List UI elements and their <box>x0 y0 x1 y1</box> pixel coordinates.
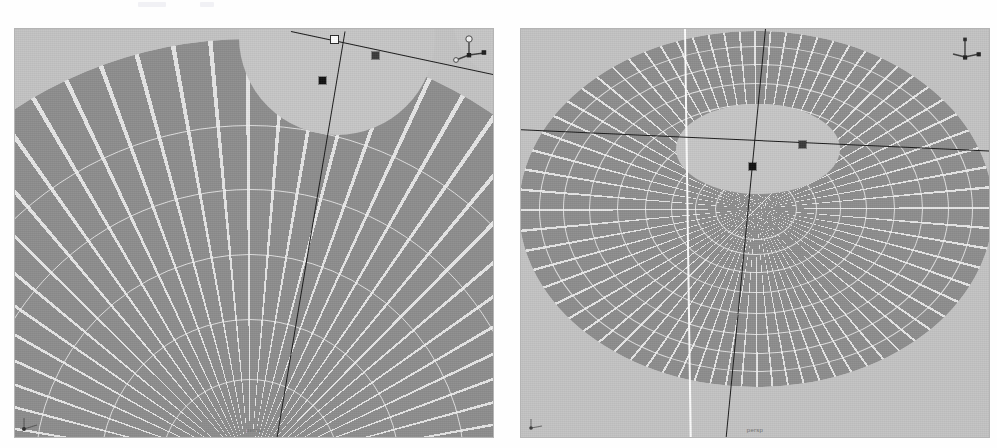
viewport-right[interactable]: persp <box>520 28 990 438</box>
axis-gizmo-icon[interactable] <box>449 33 489 71</box>
axis-gizmo-icon[interactable] <box>945 33 985 71</box>
wireframe-rings-left <box>14 39 494 438</box>
bore-hole-right <box>676 104 840 194</box>
surface-right <box>521 29 989 437</box>
control-point-marker[interactable] <box>749 163 756 170</box>
control-point-marker-active[interactable] <box>331 36 338 43</box>
wireframe-rings-right <box>520 31 990 387</box>
viewport-label-left: persp <box>246 427 263 433</box>
viewport-left[interactable]: persp <box>14 28 494 438</box>
viewport-label-right: persp <box>747 427 764 433</box>
world-axis-icon <box>523 409 553 435</box>
world-axis-icon <box>17 409 47 435</box>
control-point-marker[interactable] <box>319 77 326 84</box>
mesh-clip-right <box>520 31 990 387</box>
control-point-marker[interactable] <box>372 52 379 59</box>
control-point-marker[interactable] <box>799 141 806 148</box>
mesh-clip-left <box>14 39 494 438</box>
page-canvas: persp <box>0 0 997 448</box>
surface-left <box>15 29 493 437</box>
viewport-row: persp <box>0 0 997 448</box>
